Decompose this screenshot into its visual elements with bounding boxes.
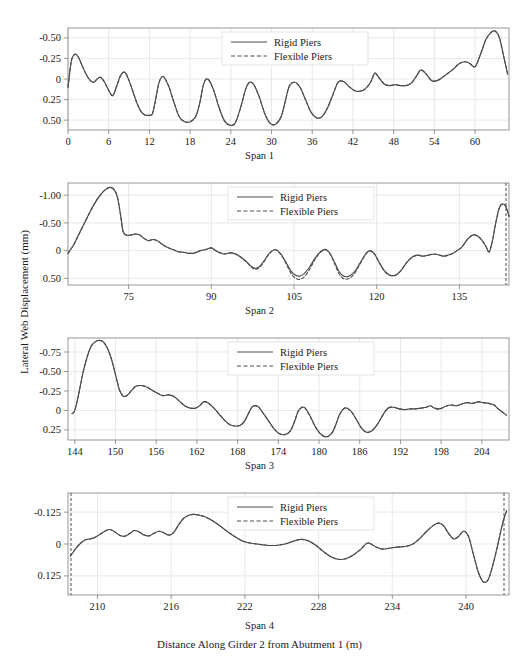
legend-label-flexible-piers: Flexible Piers bbox=[280, 361, 338, 372]
legend-label-rigid-piers: Rigid Piers bbox=[280, 192, 327, 203]
chart-panel-span-3: -0.75-0.50-0.2500.2514415015616216817418… bbox=[0, 332, 519, 457]
x-tick-label: 156 bbox=[148, 446, 164, 457]
y-tick-label: 0.25 bbox=[43, 424, 61, 435]
chart-panel-span-4: -0.12500.125210216222228234240Rigid Pier… bbox=[0, 487, 519, 612]
x-tick-label: 24 bbox=[226, 136, 237, 147]
x-tick-label: 144 bbox=[67, 446, 84, 457]
x-tick-label: 0 bbox=[65, 136, 70, 147]
y-tick-label: -0.25 bbox=[39, 53, 61, 64]
y-tick-label: -0.125 bbox=[34, 507, 61, 518]
y-tick-label: -0.50 bbox=[39, 32, 61, 43]
x-tick-label: 192 bbox=[393, 446, 409, 457]
x-tick-label: 12 bbox=[144, 136, 155, 147]
y-tick-label: 0.25 bbox=[43, 94, 61, 105]
legend: Rigid PiersFlexible Piers bbox=[228, 497, 374, 530]
y-tick-label: -0.50 bbox=[39, 366, 61, 377]
plot-svg-3: -0.75-0.50-0.2500.2514415015616216817418… bbox=[0, 332, 519, 457]
x-tick-label: 105 bbox=[286, 291, 302, 302]
x-axis-title: Distance Along Girder 2 from Abutment 1 … bbox=[0, 638, 519, 650]
x-tick-label: 48 bbox=[388, 136, 399, 147]
legend-label-flexible-piers: Flexible Piers bbox=[274, 51, 332, 62]
x-tick-label: 198 bbox=[433, 446, 449, 457]
x-tick-label: 54 bbox=[429, 136, 440, 147]
y-tick-label: -0.50 bbox=[39, 218, 61, 229]
x-tick-label: 6 bbox=[106, 136, 111, 147]
y-tick-label: 0.125 bbox=[37, 570, 61, 581]
x-tick-label: 174 bbox=[270, 446, 287, 457]
chart-panel-span-2: -1.00-0.5000.507590105120135Rigid PiersF… bbox=[0, 177, 519, 302]
x-tick-label: 210 bbox=[90, 601, 106, 612]
x-tick-label: 180 bbox=[311, 446, 327, 457]
span-label-2: Span 2 bbox=[0, 305, 519, 316]
plot-svg-2: -1.00-0.5000.507590105120135Rigid PiersF… bbox=[0, 177, 519, 302]
top-caption bbox=[0, 0, 519, 5]
x-tick-label: 222 bbox=[237, 601, 253, 612]
legend-label-rigid-piers: Rigid Piers bbox=[280, 502, 327, 513]
x-tick-label: 135 bbox=[452, 291, 468, 302]
plot-svg-1: -0.50-0.2500.250.5006121824303642485460R… bbox=[0, 22, 519, 147]
legend-label-flexible-piers: Flexible Piers bbox=[280, 206, 338, 217]
span-label-4: Span 4 bbox=[0, 620, 519, 631]
x-tick-label: 90 bbox=[206, 291, 217, 302]
span-label-1: Span 1 bbox=[0, 150, 519, 161]
x-tick-label: 120 bbox=[369, 291, 385, 302]
y-tick-label: 0 bbox=[56, 539, 61, 550]
x-tick-label: 42 bbox=[348, 136, 359, 147]
y-tick-label: 0 bbox=[56, 405, 61, 416]
y-tick-label: -1.00 bbox=[39, 190, 61, 201]
x-tick-label: 216 bbox=[163, 601, 179, 612]
y-tick-label: 0.50 bbox=[43, 115, 61, 126]
x-tick-label: 60 bbox=[470, 136, 481, 147]
y-tick-label: 0 bbox=[56, 74, 61, 85]
legend-label-rigid-piers: Rigid Piers bbox=[280, 347, 327, 358]
span-label-3: Span 3 bbox=[0, 460, 519, 471]
legend: Rigid PiersFlexible Piers bbox=[228, 342, 374, 375]
x-tick-label: 36 bbox=[307, 136, 318, 147]
legend-label-rigid-piers: Rigid Piers bbox=[274, 37, 321, 48]
legend: Rigid PiersFlexible Piers bbox=[222, 32, 368, 65]
x-tick-label: 234 bbox=[384, 601, 401, 612]
x-tick-label: 186 bbox=[352, 446, 368, 457]
y-tick-label: -0.75 bbox=[39, 347, 61, 358]
x-tick-label: 30 bbox=[266, 136, 277, 147]
y-tick-label: 0.50 bbox=[43, 273, 61, 284]
x-tick-label: 168 bbox=[230, 446, 246, 457]
x-tick-label: 18 bbox=[185, 136, 196, 147]
x-tick-label: 150 bbox=[108, 446, 124, 457]
y-tick-label: -0.25 bbox=[39, 386, 61, 397]
y-tick-label: 0 bbox=[56, 245, 61, 256]
figure-lateral-web-displacement: Lateral Web Displacement (mm) -0.50-0.25… bbox=[0, 0, 519, 659]
x-tick-label: 204 bbox=[474, 446, 491, 457]
legend-label-flexible-piers: Flexible Piers bbox=[280, 516, 338, 527]
legend: Rigid PiersFlexible Piers bbox=[228, 187, 374, 220]
plot-svg-4: -0.12500.125210216222228234240Rigid Pier… bbox=[0, 487, 519, 612]
x-tick-label: 162 bbox=[189, 446, 205, 457]
x-tick-label: 75 bbox=[123, 291, 134, 302]
x-tick-label: 240 bbox=[458, 601, 474, 612]
x-tick-label: 228 bbox=[311, 601, 327, 612]
chart-panel-span-1: -0.50-0.2500.250.5006121824303642485460R… bbox=[0, 22, 519, 147]
